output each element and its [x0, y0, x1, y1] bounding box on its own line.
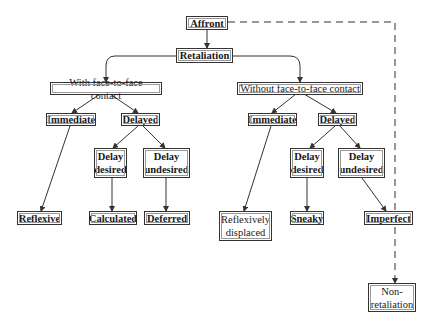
node-with-delay-undesired: Delay undesired: [143, 148, 190, 178]
node-with-contact: With face-to-face contact: [50, 82, 162, 95]
node-without-delay-desired: Delay desired: [290, 148, 324, 178]
node-reflexive: Reflexive: [17, 211, 62, 225]
node-with-delay-desired: Delay desired: [94, 148, 127, 178]
node-calculated: Calculated: [89, 211, 137, 225]
node-with-delayed: Delayed: [121, 113, 160, 126]
node-deferred: Deferred: [144, 211, 190, 225]
node-without-delay-undesired: Delay undesired: [338, 148, 385, 178]
node-with-immediate: Immediate: [46, 113, 96, 126]
node-imperfect: Imperfect: [364, 211, 413, 225]
node-retaliation: Retaliation: [176, 48, 233, 63]
node-non-retaliation: Non- retaliation: [368, 283, 416, 312]
node-sneaky: Sneaky: [290, 211, 324, 225]
edge-retaliation-without: [232, 56, 300, 82]
node-without-immediate: Immediate: [248, 113, 297, 126]
node-affront: Affront: [186, 16, 228, 30]
node-without-delayed: Delayed: [318, 113, 357, 126]
node-without-contact: Without face-to-face contact: [237, 82, 363, 95]
node-reflexively-displaced: Reflexively displaced: [219, 211, 272, 241]
retaliation-tree-diagram: Affront Retaliation With face-to-face co…: [0, 0, 430, 321]
